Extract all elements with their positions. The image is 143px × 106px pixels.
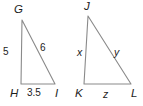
triangles-svg xyxy=(0,0,143,106)
side-label-jk-x: x xyxy=(77,47,82,58)
side-label-hi-3point5: 3.5 xyxy=(27,88,41,98)
triangle-jkl-shape xyxy=(84,16,131,84)
vertex-label-k: K xyxy=(75,88,83,100)
vertex-label-l: L xyxy=(131,88,137,100)
side-label-gh-5: 5 xyxy=(3,47,9,57)
side-label-jl-y: y xyxy=(114,47,119,58)
vertex-label-h: H xyxy=(10,88,18,100)
vertex-label-i: I xyxy=(55,88,58,100)
geometry-figure: G H I 5 6 3.5 J K L x y z xyxy=(0,0,143,106)
vertex-label-j: J xyxy=(84,1,90,13)
vertex-label-g: G xyxy=(14,4,23,16)
triangle-ghi-shape xyxy=(21,20,55,84)
side-label-gi-6: 6 xyxy=(40,43,46,53)
side-label-kl-z: z xyxy=(103,89,108,100)
